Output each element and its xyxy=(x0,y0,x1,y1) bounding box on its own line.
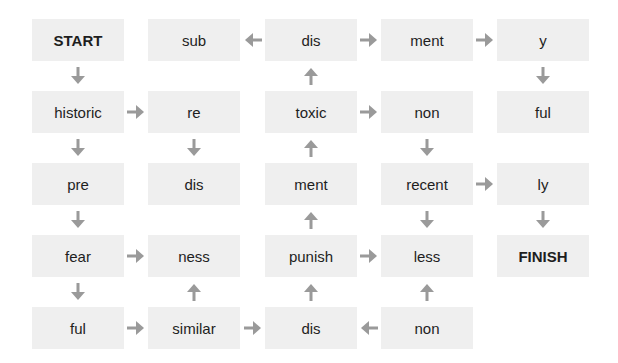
arrow-down-icon xyxy=(415,136,439,160)
arrow-down-icon xyxy=(66,208,90,232)
maze-cell-pre: pre xyxy=(32,163,124,205)
maze-cell-recent: recent xyxy=(381,163,473,205)
arrow-left-icon xyxy=(241,28,265,52)
arrow-down-icon xyxy=(66,280,90,304)
maze-cell-non: non xyxy=(381,91,473,133)
arrow-right-icon xyxy=(357,28,381,52)
maze-cell-re: re xyxy=(148,91,240,133)
maze-cell-finish: FINISH xyxy=(497,235,589,277)
arrow-down-icon xyxy=(66,64,90,88)
arrow-up-icon xyxy=(182,280,206,304)
arrow-down-icon xyxy=(182,136,206,160)
maze-cell-non: non xyxy=(381,307,473,349)
maze-cell-y: y xyxy=(497,19,589,61)
maze-cell-historic: historic xyxy=(32,91,124,133)
maze-cell-ful: ful xyxy=(497,91,589,133)
maze-cell-dis: dis xyxy=(265,307,357,349)
arrow-down-icon xyxy=(531,64,555,88)
arrow-right-icon xyxy=(473,28,497,52)
maze-cell-sub: sub xyxy=(148,19,240,61)
arrow-up-icon xyxy=(299,208,323,232)
maze-cell-ful: ful xyxy=(32,307,124,349)
maze-cell-punish: punish xyxy=(265,235,357,277)
arrow-down-icon xyxy=(531,208,555,232)
maze-cell-similar: similar xyxy=(148,307,240,349)
maze-cell-ment: ment xyxy=(265,163,357,205)
arrow-right-icon xyxy=(473,172,497,196)
arrow-right-icon xyxy=(357,244,381,268)
arrow-right-icon xyxy=(124,316,148,340)
maze-cell-less: less xyxy=(381,235,473,277)
maze-cell-ment: ment xyxy=(381,19,473,61)
maze-cell-ness: ness xyxy=(148,235,240,277)
maze-cell-ly: ly xyxy=(497,163,589,205)
maze-cell-start: START xyxy=(32,19,124,61)
maze-cell-dis: dis xyxy=(148,163,240,205)
arrow-up-icon xyxy=(299,64,323,88)
arrow-right-icon xyxy=(124,244,148,268)
arrow-up-icon xyxy=(299,136,323,160)
maze-cell-fear: fear xyxy=(32,235,124,277)
arrow-up-icon xyxy=(299,280,323,304)
arrow-right-icon xyxy=(241,316,265,340)
arrow-down-icon xyxy=(66,136,90,160)
arrow-down-icon xyxy=(415,208,439,232)
maze-cell-dis: dis xyxy=(265,19,357,61)
arrow-right-icon xyxy=(357,100,381,124)
maze-cell-toxic: toxic xyxy=(265,91,357,133)
arrow-right-icon xyxy=(124,100,148,124)
arrow-up-icon xyxy=(415,280,439,304)
arrow-left-icon xyxy=(357,316,381,340)
